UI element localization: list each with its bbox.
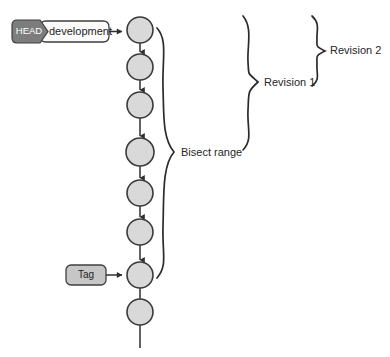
- commit-node-2[interactable]: [127, 54, 153, 80]
- revision-1-brace: [243, 16, 258, 150]
- revision-1-annotation: Revision 1: [243, 16, 315, 150]
- bisect-range-label: Bisect range: [181, 146, 242, 158]
- head-badge-label: HEAD: [16, 25, 43, 36]
- bisect-range-brace: [157, 28, 174, 278]
- bisect-range-annotation: Bisect range: [157, 28, 242, 278]
- branch-badge-label: development: [49, 25, 112, 37]
- revision-1-label: Revision 1: [264, 76, 315, 88]
- tag-group[interactable]: Tag: [66, 265, 122, 285]
- commit-node-7[interactable]: [127, 262, 153, 288]
- diagram-canvas: development HEAD Tag Bisect range Revisi…: [0, 0, 390, 357]
- bisect-diagram: development HEAD Tag Bisect range Revisi…: [0, 0, 390, 357]
- commit-node-4[interactable]: [126, 138, 154, 166]
- commit-node-5[interactable]: [127, 180, 153, 206]
- revision-2-label: Revision 2: [330, 44, 381, 56]
- commit-node-3[interactable]: [127, 92, 153, 118]
- tag-badge-label: Tag: [78, 269, 94, 280]
- commit-node-8[interactable]: [127, 299, 153, 325]
- head-branch-group[interactable]: development HEAD: [12, 20, 122, 43]
- commit-node-6[interactable]: [127, 219, 153, 245]
- commit-node-1[interactable]: [127, 17, 153, 43]
- revision-2-annotation: Revision 2: [312, 16, 381, 86]
